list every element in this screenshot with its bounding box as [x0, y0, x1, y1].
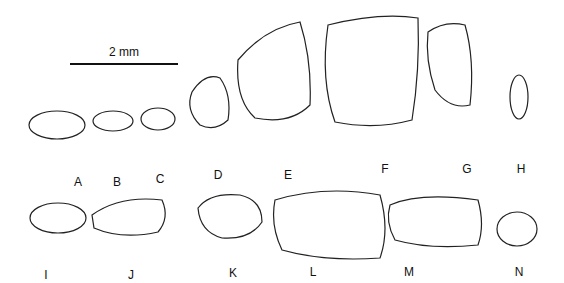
specimen-label-b: B: [113, 175, 121, 189]
tooth-l: [274, 191, 385, 259]
tooth-c: [141, 108, 175, 130]
specimen-label-l: L: [310, 265, 317, 279]
tooth-h: [510, 75, 528, 119]
tooth-g: [427, 24, 471, 106]
specimen-label-j: J: [128, 268, 134, 282]
tooth-d: [190, 77, 229, 128]
tooth-k: [198, 195, 262, 239]
tooth-a: [29, 111, 85, 139]
tooth-drawings: [0, 0, 564, 283]
tooth-e: [238, 22, 311, 120]
tooth-f: [325, 16, 418, 125]
tooth-m: [388, 197, 481, 247]
specimen-label-f: F: [381, 162, 388, 176]
specimen-label-m: M: [404, 265, 414, 279]
tooth-b: [93, 111, 133, 131]
tooth-n: [497, 212, 537, 246]
specimen-label-g: G: [462, 162, 471, 176]
specimen-label-e: E: [284, 168, 292, 182]
tooth-i: [30, 203, 86, 233]
specimen-label-i: I: [44, 268, 47, 282]
specimen-label-a: A: [74, 175, 82, 189]
specimen-label-h: H: [517, 162, 526, 176]
specimen-label-c: C: [156, 172, 165, 186]
specimen-label-d: D: [214, 168, 223, 182]
specimen-label-n: N: [515, 265, 524, 279]
specimen-label-k: K: [229, 266, 237, 280]
tooth-j: [92, 199, 165, 235]
